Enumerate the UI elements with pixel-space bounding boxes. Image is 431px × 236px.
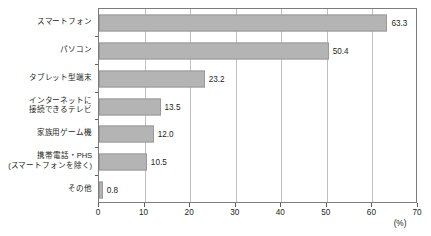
bar — [99, 182, 103, 199]
bar-value-label: 13.5 — [165, 102, 181, 111]
x-axis-tick-labels: 010203040506070 — [98, 208, 417, 220]
category-label: タブレット型端末 — [0, 73, 92, 83]
x-axis-unit-label: (%) — [394, 219, 407, 229]
bar-value-label: 63.3 — [391, 18, 407, 27]
x-axis-tick — [235, 203, 236, 207]
bar-value-label: 10.5 — [151, 158, 167, 167]
x-axis-tick-label: 30 — [230, 208, 239, 218]
x-axis-tick-label: 40 — [276, 208, 285, 218]
x-axis-tick — [144, 203, 145, 207]
x-axis-tick-label: 60 — [367, 208, 376, 218]
x-axis-tick-label: 70 — [412, 208, 421, 218]
category-label: パソコン — [0, 45, 92, 55]
bar — [99, 126, 154, 143]
category-label: 家族用ゲーム機 — [0, 129, 92, 139]
x-axis-tick-label: 10 — [139, 208, 148, 218]
bar — [99, 42, 329, 59]
bar — [99, 154, 147, 171]
bar-value-label: 0.8 — [107, 186, 118, 195]
bar — [99, 14, 387, 31]
x-axis-tick — [280, 203, 281, 207]
x-axis-tick-label: 0 — [96, 208, 101, 218]
x-axis-tick — [326, 203, 327, 207]
category-label: 携帯電話・PHS (スマートフォンを除く) — [0, 152, 92, 171]
x-axis-tick-label: 20 — [185, 208, 194, 218]
category-label: その他 — [0, 184, 92, 194]
category-label: インターネットに 接続できるテレビ — [0, 96, 92, 115]
bars-layer: 63.350.423.213.512.010.50.8 — [99, 9, 416, 202]
x-axis-tick — [417, 203, 418, 207]
bar-value-label: 23.2 — [209, 74, 225, 83]
bar — [99, 70, 205, 87]
bar-value-label: 50.4 — [333, 46, 349, 55]
gridline — [418, 9, 419, 202]
bar-value-label: 12.0 — [158, 130, 174, 139]
bar-chart: スマートフォンパソコンタブレット型端末インターネットに 接続できるテレビ家族用ゲ… — [0, 0, 431, 236]
plot-area: 63.350.423.213.512.010.50.8 — [98, 8, 417, 203]
x-axis-tick — [189, 203, 190, 207]
category-axis: スマートフォンパソコンタブレット型端末インターネットに 接続できるテレビ家族用ゲ… — [0, 8, 96, 203]
category-label: スマートフォン — [0, 17, 92, 27]
bar — [99, 98, 161, 115]
x-axis-tick — [371, 203, 372, 207]
x-axis-tick-label: 50 — [321, 208, 330, 218]
x-axis-tick — [98, 203, 99, 207]
